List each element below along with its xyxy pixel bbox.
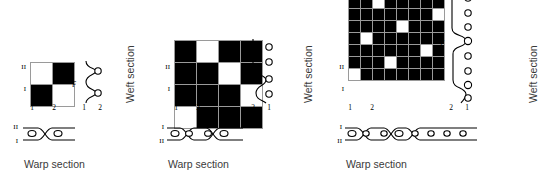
draft-cell-warp-up <box>349 33 360 44</box>
draft-cell-warp-up <box>373 69 384 80</box>
draft-cell-warp-up <box>361 69 372 80</box>
draft-cell-weft-up <box>397 21 408 32</box>
draft-cell-weft-up <box>53 85 74 106</box>
draft-cell-warp-up <box>373 21 384 32</box>
warp-section-caption: Warp section <box>346 158 407 170</box>
weft-axis-label-1: 1 <box>263 104 275 112</box>
draft-cell-warp-up <box>349 0 360 8</box>
draft-cell-warp-up <box>409 21 420 32</box>
column-label-2: 2 <box>191 104 205 112</box>
column-label-2: 2 <box>47 104 61 112</box>
draft-cell-warp-up <box>421 57 432 68</box>
draft-cell-weft-up <box>385 57 396 68</box>
weft-axis-label-1: 1 <box>461 104 473 112</box>
warp-row-label-bottom: I <box>6 138 18 145</box>
draft-cell-warp-up <box>361 21 372 32</box>
draft-cell-warp-up <box>397 45 408 56</box>
warp-section-diagram <box>22 120 76 146</box>
weft-section-caption: Weft section <box>302 45 314 103</box>
weft-section-caption: Weft section <box>527 45 539 103</box>
weave-draft-plain <box>30 62 75 107</box>
draft-cell-warp-up <box>433 69 444 80</box>
draft-cell-warp-up <box>219 41 240 62</box>
draft-cell-warp-up <box>373 45 384 56</box>
draft-cell-warp-up <box>409 57 420 68</box>
draft-cell-warp-up <box>397 9 408 20</box>
warp-row-label-bottom: II <box>152 138 164 145</box>
draft-cell-warp-up <box>385 9 396 20</box>
draft-cell-warp-up <box>397 0 408 8</box>
draft-cell-warp-up <box>385 69 396 80</box>
draft-cell-weft-up <box>373 0 384 8</box>
row-label-I: I <box>156 86 170 93</box>
weave-draft-satin <box>348 0 445 81</box>
draft-cell-warp-up <box>397 57 408 68</box>
draft-cell-warp-up <box>361 45 372 56</box>
draft-cell-warp-up <box>361 0 372 8</box>
draft-cell-warp-up <box>349 9 360 20</box>
draft-grid <box>348 0 445 81</box>
draft-cell-warp-up <box>31 85 52 106</box>
warp-section-diagram <box>344 120 478 146</box>
draft-cell-warp-up <box>53 63 74 84</box>
warp-row-label-top: I <box>330 124 342 131</box>
draft-cell-warp-up <box>175 63 196 84</box>
weave-panel-satin: II I 1 2 F 2 1 Weft section I II <box>330 0 555 185</box>
draft-cell-warp-up <box>349 21 360 32</box>
draft-cell-warp-up <box>409 33 420 44</box>
warp-section-caption: Warp section <box>168 158 229 170</box>
draft-cell-warp-up <box>421 33 432 44</box>
draft-cell-warp-up <box>385 33 396 44</box>
warp-row-label-top: I <box>152 124 164 131</box>
column-label-1: 1 <box>169 104 183 112</box>
draft-cell-warp-up <box>409 45 420 56</box>
draft-cell-warp-up <box>197 63 218 84</box>
weft-axis-label-1: 1 <box>78 104 90 112</box>
weft-section-caption: Weft section <box>124 45 136 103</box>
draft-cell-warp-up <box>409 0 420 8</box>
draft-cell-warp-up <box>385 0 396 8</box>
column-label-1: 1 <box>25 104 39 112</box>
weft-axis-label-2: 2 <box>94 104 106 112</box>
draft-cell-weft-up <box>197 41 218 62</box>
float-label-F: F <box>242 70 246 78</box>
column-label-2: 2 <box>365 104 379 112</box>
weave-panel-twill: II I 1 2 F 2 1 Weft section I II Warp se… <box>150 0 330 185</box>
draft-cell-warp-up <box>433 21 444 32</box>
draft-cell-weft-up <box>349 69 360 80</box>
weft-section-diagram <box>449 0 481 104</box>
draft-cell-warp-up <box>385 45 396 56</box>
draft-cell-warp-up <box>397 33 408 44</box>
warp-row-label-bottom: II <box>330 138 342 145</box>
draft-cell-weft-up <box>31 63 52 84</box>
draft-cell-warp-up <box>433 57 444 68</box>
row-label-I: I <box>12 86 26 93</box>
row-label-I: I <box>330 86 344 93</box>
draft-cell-warp-up <box>373 9 384 20</box>
draft-cell-weft-up <box>219 63 240 84</box>
draft-cell-warp-up <box>373 57 384 68</box>
warp-section-diagram <box>166 120 244 146</box>
draft-cell-warp-up <box>433 0 444 8</box>
draft-cell-warp-up <box>361 57 372 68</box>
draft-cell-warp-up <box>409 69 420 80</box>
draft-cell-weft-up <box>361 33 372 44</box>
warp-row-label-top: II <box>6 124 18 131</box>
draft-cell-warp-up <box>397 69 408 80</box>
warp-section-caption: Warp section <box>24 158 85 170</box>
float-label-F: F <box>440 40 444 48</box>
draft-cell-warp-up <box>175 41 196 62</box>
draft-cell-weft-up <box>433 9 444 20</box>
column-label-1: 1 <box>343 104 357 112</box>
draft-cell-warp-up <box>219 85 240 106</box>
weft-axis-label-2: 2 <box>445 104 457 112</box>
draft-cell-warp-up <box>421 21 432 32</box>
draft-cell-warp-up <box>175 85 196 106</box>
float-label-F: F <box>72 81 76 89</box>
draft-cell-warp-up <box>349 45 360 56</box>
draft-cell-warp-up <box>361 9 372 20</box>
weft-axis-label-2: 2 <box>247 104 259 112</box>
draft-grid <box>30 62 75 107</box>
draft-cell-weft-up <box>421 45 432 56</box>
draft-cell-warp-up <box>421 69 432 80</box>
